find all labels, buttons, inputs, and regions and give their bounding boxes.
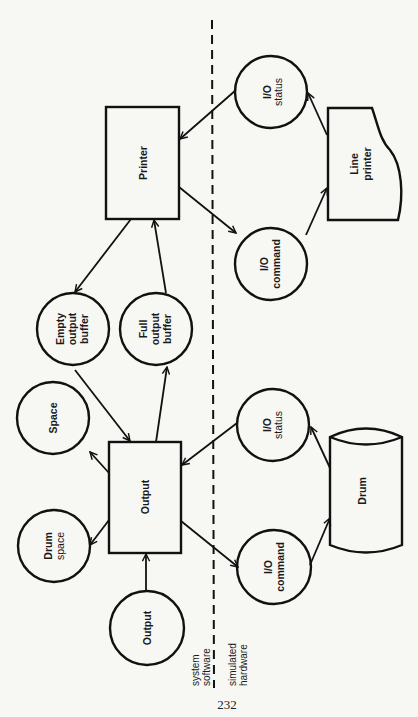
edge-drum-to-io-status	[311, 427, 330, 468]
empty-buffer-label-3: buffer	[78, 314, 90, 344]
line-printer-label-2: printer	[361, 147, 373, 180]
drum-label: Drum	[356, 477, 368, 504]
edge-line-printer-to-io-status	[308, 93, 327, 135]
edge-output-to-full-buffer	[156, 367, 167, 442]
line-printer-node: Line printer	[328, 108, 401, 220]
io-command-printer-label-2: command	[270, 239, 282, 289]
printer-node: Printer	[106, 107, 179, 219]
drum-space-label-2: space	[54, 532, 66, 560]
edge-io-command-to-drum	[310, 518, 330, 565]
edge-printer-to-empty-buffer	[75, 219, 131, 292]
edge-io-command-to-line-printer	[306, 188, 327, 235]
software-hardware-boundary	[212, 20, 214, 688]
io-command-printer-node: I/O command	[235, 228, 307, 300]
edge-io-status-to-printer	[180, 90, 236, 139]
edge-output-to-space	[90, 452, 109, 473]
software-label: software	[201, 648, 212, 686]
system-label: system	[190, 654, 201, 686]
io-status-drum-label-2: status	[272, 411, 284, 439]
io-command-drum-node: I/O command	[237, 530, 311, 604]
output-process-label: Output	[139, 479, 151, 514]
edge-output-to-drum-space	[90, 520, 109, 545]
page-number: 232	[217, 697, 237, 712]
edge-io-status-drum-to-output	[182, 423, 237, 465]
space-node: Space	[17, 382, 89, 454]
full-buffer-label-3: buffer	[161, 314, 173, 344]
line-printer-label-1: Line	[348, 153, 360, 175]
output-input-node: Output	[110, 591, 184, 665]
io-status-printer-label-2: status	[272, 78, 284, 106]
drum-space-node: Drum space	[18, 510, 90, 582]
io-status-printer-node: I/O status	[235, 56, 307, 128]
io-status-drum-node: I/O status	[237, 389, 309, 461]
empty-buffer-label-2: output	[66, 312, 78, 345]
io-command-printer-label-1: I/O	[258, 257, 270, 271]
diagram-canvas: Printer Line printer I/O status I/O comm…	[0, 0, 418, 717]
simulated-label: simulated	[227, 643, 238, 686]
io-command-drum-label-1: I/O	[262, 560, 274, 574]
edge-printer-to-io-command	[179, 187, 236, 233]
drum-node: Drum	[330, 429, 402, 553]
edge-full-buffer-to-printer	[154, 220, 166, 293]
boundary-labels: system software simulated hardware	[190, 643, 249, 686]
edge-output-to-io-command-drum	[181, 521, 238, 567]
full-output-buffer-node: Full output buffer	[120, 293, 192, 365]
edge-empty-buffer-to-output	[75, 370, 130, 441]
printer-label: Printer	[137, 146, 149, 180]
output-process-node: Output	[109, 442, 181, 553]
full-buffer-label-2: output	[149, 312, 161, 345]
drum-space-label-1: Drum	[42, 532, 54, 559]
full-buffer-label-1: Full	[137, 320, 149, 339]
empty-buffer-label-1: Empty	[54, 313, 66, 345]
output-input-label: Output	[141, 610, 153, 645]
edges	[75, 90, 330, 591]
io-command-drum-label-2: command	[274, 542, 286, 592]
space-label: Space	[47, 402, 59, 433]
empty-output-buffer-node: Empty output buffer	[37, 293, 109, 365]
hardware-label: hardware	[238, 644, 249, 686]
